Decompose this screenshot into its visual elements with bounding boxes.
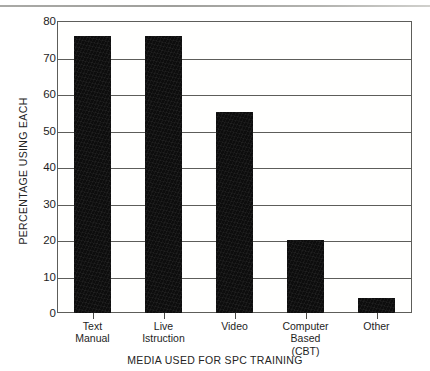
- bar-series: [57, 21, 412, 313]
- x-category-label-line: Live: [128, 320, 199, 332]
- x-category-label-line: Video: [199, 320, 270, 332]
- x-tick: [306, 313, 307, 319]
- bar: [74, 36, 111, 313]
- x-category-label-line: Istruction: [128, 332, 199, 344]
- y-tick-label-80: 80: [16, 15, 56, 27]
- y-tick-label-30: 30: [16, 198, 56, 210]
- x-tick: [164, 313, 165, 319]
- x-tick: [377, 313, 378, 319]
- x-tick: [93, 313, 94, 319]
- x-category-label: TextManual: [57, 320, 128, 345]
- x-tick: [235, 313, 236, 319]
- y-tick-label-60: 60: [16, 88, 56, 100]
- x-axis-ticks: [57, 313, 412, 320]
- bar: [287, 240, 324, 313]
- bar: [145, 36, 182, 313]
- x-category-label: ComputerBased(CBT): [270, 320, 341, 357]
- x-category-label: LiveIstruction: [128, 320, 199, 345]
- y-tick-label-20: 20: [16, 234, 56, 246]
- bar: [216, 112, 253, 313]
- x-category-label-line: Computer: [270, 320, 341, 332]
- x-category-label-line: Other: [341, 320, 412, 332]
- y-tick-label-50: 50: [16, 125, 56, 137]
- x-category-label-line: Based: [270, 332, 341, 344]
- x-category-label: Other: [341, 320, 412, 332]
- x-category-label-line: Manual: [57, 332, 128, 344]
- y-tick-label-10: 10: [16, 271, 56, 283]
- bar: [358, 298, 395, 313]
- y-tick-label-40: 40: [16, 161, 56, 173]
- bar-chart-figure: PERCENTAGE USING EACH 01020304050607080 …: [0, 0, 430, 371]
- y-tick-label-70: 70: [16, 52, 56, 64]
- x-axis-title: MEDIA USED FOR SPC TRAINING: [0, 354, 430, 366]
- x-category-label-line: Text: [57, 320, 128, 332]
- x-category-label: Video: [199, 320, 270, 332]
- y-tick-label-0: 0: [16, 307, 56, 319]
